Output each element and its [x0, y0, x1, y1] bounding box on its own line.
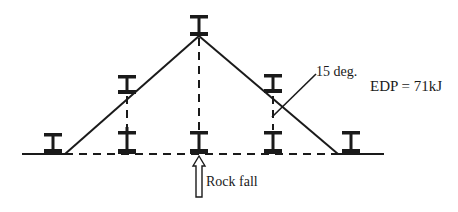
i-beam-post-right-mid-upper — [264, 74, 282, 93]
i-beam-post-center-lower — [190, 131, 208, 154]
angle-label: 15 deg. — [316, 64, 357, 80]
energy-label: EDP = 71kJ — [370, 78, 442, 95]
i-beam-post-center-top — [190, 15, 208, 36]
i-beam-post-right-end — [342, 131, 360, 154]
rockfall-arrow-icon — [193, 156, 205, 197]
cable-right — [199, 36, 338, 154]
rockfall-barrier-diagram: 15 deg. EDP = 71kJ Rock fall — [0, 0, 458, 212]
rockfall-label: Rock fall — [206, 174, 258, 190]
i-beam-post-right-mid-lower — [264, 131, 282, 154]
i-beam-post-left-end — [44, 133, 62, 154]
cable-left — [65, 36, 199, 154]
angle-leader-line — [272, 74, 316, 117]
i-beam-post-left-mid-lower — [118, 127, 136, 154]
i-beam-post-left-mid-upper — [118, 75, 136, 94]
